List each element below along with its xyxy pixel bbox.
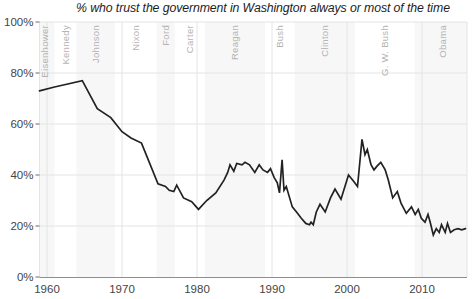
x-tick-label-1970: 1970 [109, 283, 135, 295]
president-label-clinton: Clinton [319, 25, 330, 57]
president-label-reagan: Reagan [229, 25, 240, 60]
x-tick-label-1960: 1960 [34, 283, 60, 295]
x-tick-label-2000: 2000 [334, 283, 360, 295]
trend-line-plot: 0%20%40%60%80%100%1960197019801990200020… [0, 0, 472, 299]
y-tick-label-40: 40% [10, 169, 33, 181]
president-label-eisenhower: Eisenhower [39, 25, 50, 78]
president-label-obama: Obama [437, 25, 448, 58]
y-tick-label-80: 80% [10, 67, 33, 79]
trust-in-government-chart: % who trust the government in Washington… [0, 0, 472, 299]
term-band-obama [415, 22, 467, 277]
president-label-g-w-bush: G. W. Bush [379, 25, 390, 76]
x-tick-label-1980: 1980 [184, 283, 210, 295]
president-label-carter: Carter [184, 25, 195, 53]
y-tick-label-0: 0% [17, 271, 34, 283]
y-tick-label-100: 100% [4, 16, 33, 28]
president-label-johnson: Johnson [90, 25, 101, 63]
president-label-nixon: Nixon [130, 25, 141, 51]
term-band-clinton [295, 22, 355, 277]
president-label-ford: Ford [160, 25, 171, 46]
x-tick-label-2010: 2010 [409, 283, 435, 295]
term-band-ford [157, 22, 175, 277]
president-label-kennedy: Kennedy [60, 25, 71, 65]
y-tick-label-20: 20% [10, 220, 33, 232]
y-tick-label-60: 60% [10, 118, 33, 130]
president-label-bush: Bush [274, 25, 285, 48]
x-tick-label-1990: 1990 [259, 283, 285, 295]
